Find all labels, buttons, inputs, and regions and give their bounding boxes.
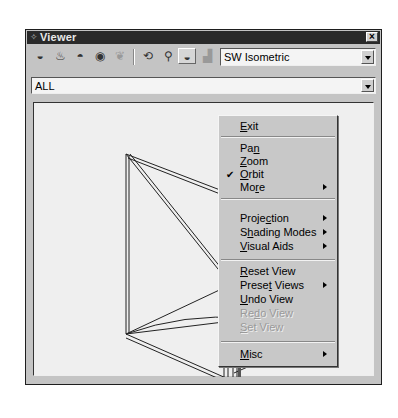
close-button[interactable]: × — [366, 32, 378, 42]
menu-item-preset-views[interactable]: Preset Views — [219, 279, 337, 292]
submenu-arrow-icon — [323, 243, 327, 249]
view-preset-value: SW Isometric — [224, 50, 289, 64]
menu-item-set-view: Set View — [219, 321, 337, 334]
view-object-button[interactable]: ◒ — [178, 48, 196, 64]
submenu-arrow-icon — [323, 229, 327, 235]
context-menu: Exit Pan Zoom ✔Orbit More Projection Sha… — [218, 115, 338, 367]
chevron-down-icon[interactable] — [361, 79, 374, 92]
menu-item-projection[interactable]: Projection — [219, 212, 337, 225]
wireframe-view-icon: ◓ — [76, 49, 83, 63]
submenu-arrow-icon — [323, 282, 327, 288]
zoom-tool-button[interactable]: ⚲ — [159, 48, 177, 64]
menu-item-undo-view[interactable]: Undo View — [219, 293, 337, 306]
close-icon: × — [369, 31, 375, 42]
submenu-arrow-icon — [323, 351, 327, 357]
ground-plane-button[interactable]: ▟ — [198, 48, 216, 64]
menu-item-more[interactable]: More — [219, 181, 337, 194]
app-icon: ✧ — [30, 32, 38, 42]
menu-item-reset-view[interactable]: Reset View — [219, 265, 337, 278]
menu-separator — [221, 136, 335, 138]
menu-item-visual-aids[interactable]: Visual Aids — [219, 240, 337, 253]
title-bar[interactable]: ✧ Viewer × — [27, 31, 380, 44]
submenu-arrow-icon — [323, 215, 327, 221]
shaded-edges-icon: ♨ — [55, 49, 66, 63]
window-title: Viewer — [40, 31, 76, 44]
chevron-down-icon[interactable] — [361, 50, 374, 64]
shaded-view-icon: ◒ — [36, 49, 43, 63]
view-preset-select[interactable]: SW Isometric — [220, 48, 376, 66]
hidden-line-button[interactable]: ◉ — [91, 48, 109, 64]
menu-item-exit[interactable]: Exit — [219, 120, 337, 133]
submenu-arrow-icon — [323, 184, 327, 190]
texture-view-icon: ❦ — [115, 49, 125, 63]
menu-separator — [221, 198, 335, 200]
orbit-tool-button[interactable]: ⟲ — [139, 48, 157, 64]
toolbar-separator — [133, 49, 135, 65]
shaded-edges-button[interactable]: ♨ — [51, 48, 69, 64]
zoom-tool-icon: ⚲ — [164, 49, 173, 63]
menu-item-pan[interactable]: Pan — [219, 142, 337, 155]
menu-item-orbit[interactable]: ✔Orbit — [219, 168, 337, 181]
texture-view-button[interactable]: ❦ — [111, 48, 129, 64]
wireframe-view-button[interactable]: ◓ — [71, 48, 89, 64]
menu-separator — [221, 259, 335, 261]
view-object-icon: ◒ — [183, 50, 190, 64]
menu-separator — [221, 341, 335, 343]
ground-plane-icon: ▟ — [203, 49, 212, 63]
hidden-line-icon: ◉ — [95, 49, 105, 63]
menu-item-redo-view: Redo View — [219, 307, 337, 320]
toolbar: ◒ ♨ ◓ ◉ ❦ ⟲ ⚲ ◒ ▟ SW Isometric — [29, 46, 378, 68]
shaded-view-button[interactable]: ◒ — [31, 48, 49, 64]
menu-item-zoom[interactable]: Zoom — [219, 155, 337, 168]
filter-value: ALL — [35, 79, 55, 93]
checkmark-icon: ✔ — [226, 168, 234, 181]
menu-item-misc[interactable]: Misc — [219, 348, 337, 361]
orbit-tool-icon: ⟲ — [143, 49, 153, 63]
menu-item-shading-modes[interactable]: Shading Modes — [219, 226, 337, 239]
filter-select[interactable]: ALL — [31, 77, 376, 94]
